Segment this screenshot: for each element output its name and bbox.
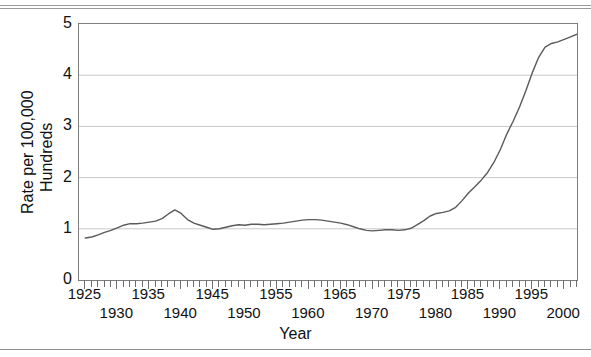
x-axis-major-tick — [436, 280, 437, 289]
x-axis-tick-label: 1935 — [118, 286, 178, 301]
y-axis-tick-label: 4 — [52, 66, 72, 82]
series-line-rate — [85, 34, 577, 238]
figure-container: 012345 192519351945195519651975198519951… — [0, 0, 591, 357]
x-axis-tick-label: 1970 — [342, 305, 402, 320]
x-axis-major-tick — [372, 280, 373, 289]
x-axis-tick-label: 1985 — [437, 286, 497, 301]
x-axis-tick-label: 1980 — [406, 305, 466, 320]
x-axis-title: Year — [0, 325, 591, 343]
bottom-rule — [0, 349, 591, 350]
x-axis-major-tick — [308, 280, 309, 289]
line-chart-svg — [79, 24, 577, 280]
y-axis-tick-label: 1 — [52, 220, 72, 236]
x-axis-tick-label: 1965 — [310, 286, 370, 301]
x-axis-major-tick — [244, 280, 245, 289]
x-axis-tick-label: 1975 — [374, 286, 434, 301]
x-axis-major-tick — [563, 280, 564, 289]
x-axis-tick-label: 2000 — [533, 305, 591, 320]
x-axis-major-tick — [116, 280, 117, 289]
y-axis-tick-label: 5 — [52, 15, 72, 31]
gridlines-group — [79, 75, 577, 229]
x-axis-tick-label: 1930 — [86, 305, 146, 320]
x-axis-minor-tick — [570, 280, 571, 287]
x-axis-tick-label: 1950 — [214, 305, 274, 320]
x-axis-tick-label: 1945 — [182, 286, 242, 301]
x-axis-tick-label: 1995 — [501, 286, 561, 301]
x-axis-major-tick — [499, 280, 500, 289]
y-axis-title-line1: Rate per 100,000 — [18, 90, 37, 214]
top-rule-1 — [0, 5, 591, 6]
x-axis-tick-label: 1960 — [278, 305, 338, 320]
top-rule-2 — [0, 8, 591, 9]
x-axis-tick-label: 1925 — [54, 286, 114, 301]
y-axis-title-line2: Hundreds — [37, 123, 56, 192]
x-axis-tick-label: 1990 — [469, 305, 529, 320]
plot-area — [78, 23, 578, 281]
x-axis-major-tick — [180, 280, 181, 289]
x-axis-tick-label: 1940 — [150, 305, 210, 320]
x-axis-minor-tick — [576, 280, 577, 287]
x-axis-tick-label: 1955 — [246, 286, 306, 301]
